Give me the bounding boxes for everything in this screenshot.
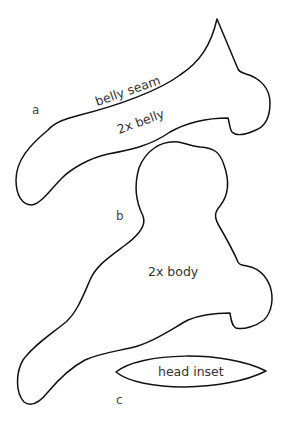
piece-letter-c: c <box>116 393 123 407</box>
label-2x-body: 2x body <box>148 264 199 279</box>
label-2x-belly: 2x belly <box>115 106 167 137</box>
pattern-diagram: belly seam 2x belly 2x body head inset a… <box>0 0 288 425</box>
label-head-inset: head inset <box>158 364 224 379</box>
piece-b-body-outline <box>18 142 273 405</box>
piece-letter-b: b <box>116 209 124 223</box>
piece-letter-a: a <box>32 103 39 117</box>
